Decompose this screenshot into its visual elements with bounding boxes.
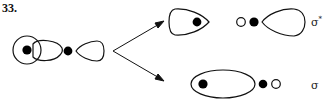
orbital-diagram: σ* σ bbox=[0, 0, 332, 108]
nucleus-filled-bonding-right bbox=[259, 80, 268, 89]
antibonding-lobe-left bbox=[169, 9, 209, 35]
nucleus-open-bonding bbox=[272, 80, 281, 89]
hybrid-lobe-left bbox=[33, 41, 62, 61]
nucleus-filled-bonding-left bbox=[198, 79, 207, 88]
arrow-down-line bbox=[113, 51, 161, 79]
nucleus-filled-antibonding-right bbox=[249, 17, 258, 26]
antibonding-combination bbox=[169, 9, 305, 36]
initial-orbital-group bbox=[13, 36, 104, 64]
nucleus-filled-antibonding-left bbox=[193, 18, 202, 27]
splitting-arrows bbox=[113, 21, 164, 81]
label-sigma: σ bbox=[311, 79, 319, 92]
nucleus-open-antibonding bbox=[237, 18, 246, 27]
hybrid-lobe-right bbox=[76, 41, 104, 61]
nucleus-filled-center bbox=[64, 47, 73, 56]
arrow-up-line bbox=[113, 23, 161, 51]
arrow-down-head bbox=[155, 74, 164, 81]
antibonding-lobe-right bbox=[262, 9, 305, 36]
bonding-combination bbox=[191, 70, 280, 98]
arrow-up-head bbox=[155, 21, 164, 28]
label-sigma-star: σ* bbox=[311, 15, 323, 29]
nucleus-filled-left bbox=[22, 45, 31, 54]
